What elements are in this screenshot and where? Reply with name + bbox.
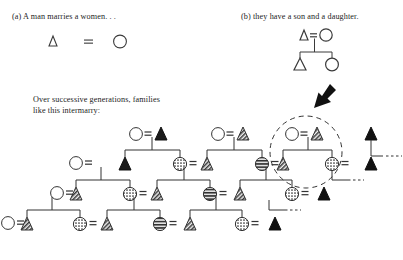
marriage-equals-icon — [302, 191, 309, 192]
male-symbol — [49, 36, 57, 46]
female-node — [73, 217, 86, 230]
marriage-equals-icon — [140, 191, 147, 192]
male-node — [184, 217, 196, 230]
female-node — [51, 187, 64, 200]
male-node — [237, 127, 249, 140]
marriage-equals-icon — [302, 194, 309, 195]
male-node — [311, 127, 323, 140]
female-node — [2, 217, 15, 230]
marriage-equals-icon — [90, 221, 97, 222]
male-node — [119, 157, 131, 170]
male-node — [318, 187, 330, 200]
mother-symbol — [320, 29, 332, 41]
marriage-equals-icon — [342, 164, 349, 165]
marriage-equals-icon — [301, 131, 308, 132]
male-node — [365, 157, 377, 170]
marriage-equals-icon — [66, 190, 73, 191]
marriage-equals-icon — [190, 164, 197, 165]
marriage-equals-icon — [170, 221, 177, 222]
generation-row-4 — [2, 217, 281, 231]
marriage-equals-icon — [85, 160, 92, 161]
male-node — [277, 157, 289, 170]
marriage-equals-icon — [272, 161, 279, 162]
pedigree-canvas — [0, 0, 403, 260]
marriage-equals-icon — [140, 194, 147, 195]
marriage-equals-icon — [170, 224, 177, 225]
marriage-equals-icon — [220, 194, 227, 195]
marriage-equals-icon — [84, 40, 93, 44]
marriage-equals-icon — [17, 220, 24, 221]
descent-lines — [269, 200, 285, 210]
female-node — [173, 157, 186, 170]
marriage-equals-icon — [227, 135, 234, 136]
male-node — [365, 127, 377, 140]
female-node — [130, 128, 143, 141]
marriage-equals-icon — [310, 33, 317, 37]
marriage-equals-icon — [190, 161, 197, 162]
female-node — [70, 157, 83, 170]
male-node — [155, 127, 167, 140]
descent-lines — [332, 170, 348, 180]
male-node — [201, 157, 213, 170]
marriage-equals-icon — [90, 224, 97, 225]
female-node — [255, 157, 268, 170]
male-node — [234, 187, 246, 200]
male-node — [151, 187, 163, 200]
marriage-equals-icon — [252, 221, 259, 222]
black-arrow-icon — [314, 84, 336, 108]
generation-row-2 — [70, 157, 377, 187]
female-node — [203, 187, 216, 200]
generation-row-1 — [125, 127, 402, 157]
male-node — [101, 217, 113, 230]
female-node — [286, 128, 299, 141]
panel-b-family — [294, 29, 338, 71]
male-node — [70, 187, 82, 200]
male-node — [21, 217, 33, 230]
marriage-equals-icon — [85, 164, 92, 165]
female-node — [285, 187, 298, 200]
marriage-equals-icon — [227, 131, 234, 132]
marriage-equals-icon — [220, 191, 227, 192]
son-symbol — [294, 58, 306, 70]
generation-row-3 — [27, 187, 330, 217]
marriage-equals-icon — [252, 224, 259, 225]
marriage-equals-icon — [342, 161, 349, 162]
marriage-equals-icon — [145, 135, 152, 136]
female-node — [212, 128, 225, 141]
female-symbol — [114, 35, 127, 48]
daughter-symbol — [326, 58, 339, 71]
female-node — [153, 217, 166, 230]
marriage-equals-icon — [301, 135, 308, 136]
female-node — [235, 217, 248, 230]
female-node — [325, 157, 338, 170]
panel-a-union — [49, 35, 126, 48]
marriage-equals-icon — [145, 131, 152, 132]
highlight-circle — [270, 116, 342, 188]
male-node — [269, 217, 281, 230]
marriage-equals-icon — [272, 164, 279, 165]
father-symbol — [300, 30, 308, 40]
female-node — [123, 187, 136, 200]
